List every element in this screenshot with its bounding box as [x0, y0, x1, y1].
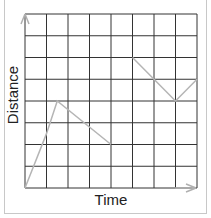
axes: [21, 14, 196, 192]
distance-time-graph: [0, 0, 211, 218]
x-axis-arrow-icon: [175, 184, 196, 192]
y-axis-label: Distance: [4, 62, 22, 128]
x-axis-label: Time: [85, 191, 137, 209]
grid: [25, 14, 197, 188]
